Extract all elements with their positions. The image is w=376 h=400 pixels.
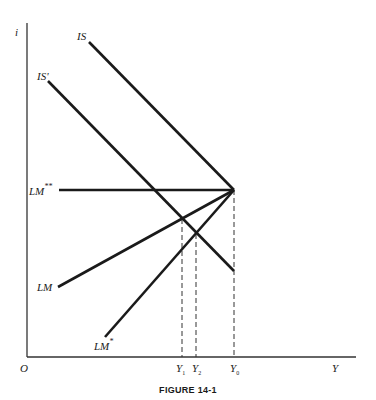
- lm-double-star-text: LM: [29, 185, 44, 197]
- lm-star-text: LM: [94, 340, 109, 352]
- y2-sub: 2: [198, 370, 201, 376]
- lm-double-star-label: LM**: [29, 184, 52, 197]
- is-curve: [89, 42, 234, 190]
- is-lm-figure: i O Y IS IS' LM** LM LM* Y1 Y2 Y0 FIGURE…: [0, 0, 376, 400]
- is-label: IS: [77, 31, 86, 42]
- y1-sub: 1: [182, 370, 185, 376]
- y2-tick-label: Y2: [192, 363, 201, 376]
- origin-label: O: [20, 363, 28, 374]
- diagram-canvas: [0, 0, 376, 400]
- lm-star-label: LM*: [94, 339, 113, 352]
- lm-curve: [58, 190, 234, 287]
- lm-star-curve: [105, 190, 234, 337]
- figure-caption: FIGURE 14-1: [0, 385, 376, 395]
- lm-star-sup: *: [109, 337, 113, 346]
- y0-tick-label: Y0: [230, 363, 239, 376]
- y-axis-label: i: [15, 27, 18, 38]
- lm-double-star-sup: **: [44, 182, 52, 191]
- x-axis-label: Y: [332, 363, 338, 374]
- y1-tick-label: Y1: [176, 363, 185, 376]
- is-prime-label: IS': [37, 71, 49, 82]
- y0-sub: 0: [236, 370, 239, 376]
- lm-label: LM: [37, 282, 52, 293]
